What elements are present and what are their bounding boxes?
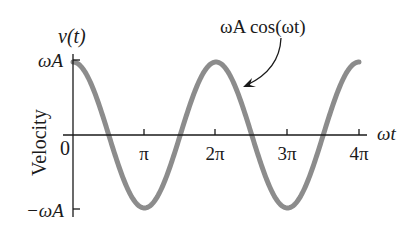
zero-label: 0 xyxy=(60,137,70,159)
curve-annotation: ωA cos(ωt) xyxy=(220,16,306,38)
annotation-arrow xyxy=(247,38,281,85)
x-tick-label-3pi: 3π xyxy=(277,143,297,164)
x-tick-label-pi: π xyxy=(139,143,149,164)
y-max-label: ωA xyxy=(38,50,63,71)
y-axis-title: Velocity xyxy=(28,109,51,176)
x-tick-label-4pi: 4π xyxy=(349,143,369,164)
y-axis-symbol: v(t) xyxy=(58,25,86,48)
arrowhead-icon xyxy=(243,78,256,87)
velocity-chart: v(t) ωA −ωA 0 Velocity π 2π 3π 4π ωt ωA … xyxy=(0,0,414,242)
x-tick-label-2pi: 2π xyxy=(205,143,225,164)
y-min-label: −ωA xyxy=(26,200,64,221)
x-axis-title: ωt xyxy=(377,123,396,144)
